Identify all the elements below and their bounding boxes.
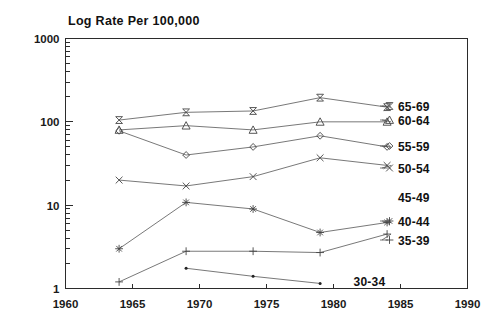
x-axis-tick-label: 1985 — [388, 298, 414, 310]
chart-container: Log Rate Per 100,000 1101001000 19601965… — [0, 0, 503, 328]
data-point — [249, 205, 257, 213]
y-axis-tick-label: 100 — [40, 116, 59, 128]
x-axis-tick-label: 1965 — [120, 298, 146, 310]
x-axis-tick-label: 1970 — [187, 298, 213, 310]
data-point — [182, 198, 190, 206]
chart-annotations: 30-34 — [354, 275, 386, 289]
legend-label: 50-54 — [398, 162, 430, 176]
data-point — [115, 245, 123, 253]
legend-label: 65-69 — [398, 100, 430, 114]
chart-title: Log Rate Per 100,000 — [68, 14, 200, 28]
data-point — [316, 229, 324, 237]
legend-item-45-49: 45-49 — [398, 191, 430, 205]
data-point — [185, 267, 188, 270]
series-inline-label: 30-34 — [354, 275, 386, 289]
x-axis-tick-label: 1980 — [321, 298, 347, 310]
x-axis-tick-label: 1960 — [53, 298, 79, 310]
y-axis-tick-label: 10 — [47, 200, 60, 212]
legend-label: 55-59 — [398, 140, 430, 154]
y-axis-tick-label: 1 — [53, 283, 60, 295]
x-axis-tick-label: 1975 — [254, 298, 280, 310]
legend-label: 45-49 — [398, 191, 430, 205]
legend-marker-asterisk — [386, 217, 394, 225]
x-axis-tick-label: 1990 — [455, 298, 481, 310]
y-axis-tick-label: 1000 — [34, 33, 60, 45]
legend-label: 35-39 — [398, 234, 430, 248]
data-point — [319, 282, 322, 285]
legend-label: 60-64 — [398, 114, 430, 128]
data-point — [252, 275, 255, 278]
line-chart: Log Rate Per 100,000 1101001000 19601965… — [0, 0, 503, 328]
legend-label: 40-44 — [398, 215, 430, 229]
